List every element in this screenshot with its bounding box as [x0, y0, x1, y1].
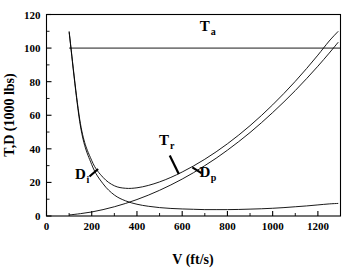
data-curves — [69, 31, 340, 215]
y-axis-title: T,D (1000 lbs) — [2, 73, 18, 157]
annotation-pointers — [89, 156, 201, 177]
annotation-Di: Di — [75, 166, 89, 185]
y-tick-label: 0 — [35, 210, 41, 222]
annotation-Ta: Ta — [200, 18, 216, 37]
chart-figure: 020040060080010001200 020406080100120 Ta… — [0, 0, 351, 272]
y-tick-label: 80 — [30, 76, 42, 88]
y-axis-tick-labels: 020406080100120 — [24, 9, 41, 223]
annotation-sub-Ta: a — [211, 26, 216, 37]
annotation-Tr: Tr — [159, 132, 175, 151]
x-tick-label: 1000 — [262, 220, 285, 232]
annotation-sub-Tr: r — [170, 140, 175, 151]
annotation-Dp: Dp — [199, 164, 216, 183]
pointer-Tr — [170, 156, 179, 174]
annotation-sub-Dp: p — [211, 172, 217, 183]
annotation-base-Di: D — [75, 166, 86, 182]
curve-annotations: TaTrDpDi — [75, 18, 217, 185]
x-tick-label: 600 — [174, 220, 191, 232]
x-tick-label: 0 — [44, 220, 50, 232]
annotation-base-Ta: T — [200, 18, 210, 34]
x-axis-title: V (ft/s) — [172, 252, 214, 268]
x-tick-label: 1200 — [307, 220, 330, 232]
y-tick-label: 120 — [24, 9, 41, 21]
curve-Dp — [69, 42, 338, 215]
x-tick-label: 400 — [129, 220, 146, 232]
plot-frame — [47, 15, 341, 217]
y-tick-label: 60 — [30, 109, 42, 121]
y-axis-ticks — [47, 15, 52, 217]
annotation-base-Tr: T — [159, 132, 169, 148]
thrust-drag-vs-velocity-chart: 020040060080010001200 020406080100120 Ta… — [0, 0, 351, 272]
y-tick-label: 100 — [24, 42, 41, 54]
y-tick-label: 40 — [30, 143, 42, 155]
annotation-sub-Di: i — [86, 174, 89, 185]
x-tick-label: 200 — [83, 220, 100, 232]
annotation-base-Dp: D — [199, 164, 210, 180]
x-tick-label: 800 — [219, 220, 236, 232]
x-axis-ticks — [47, 211, 318, 216]
y-tick-label: 20 — [30, 176, 42, 188]
x-axis-tick-labels: 020040060080010001200 — [44, 220, 330, 232]
